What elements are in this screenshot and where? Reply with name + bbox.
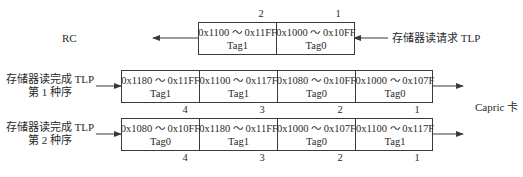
top-index-2: 2 — [251, 8, 271, 19]
capric-card-label: Capric 卡 — [475, 101, 518, 114]
cell-range: 0x1080 ～ 0x10FF — [121, 122, 200, 135]
completion-cell: 0x1100 ～ 0x117F Tag1 — [200, 71, 278, 102]
cell-range: 0x1000 ～ 0x10FF — [276, 26, 355, 39]
cell-tag: Tag1 — [385, 135, 406, 148]
cell-range: 0x1180 ～ 0x11FF — [121, 74, 200, 87]
order1-index-3: 3 — [252, 104, 272, 115]
cell-tag: Tag1 — [150, 87, 171, 100]
order2-label-line1: 存储器读完成 TLP — [0, 121, 105, 134]
order2-label-line2: 第 2 种序 — [0, 134, 105, 147]
cell-tag: Tag0 — [385, 87, 406, 100]
completion-cell: 0x1180 ～ 0x11FF Tag1 — [200, 119, 278, 150]
order2-index-4: 4 — [175, 152, 195, 163]
order1-label-line2: 第 1 种序 — [0, 86, 105, 99]
completion-cell: 0x1100 ～ 0x117F Tag1 — [356, 119, 434, 150]
cell-tag: Tag0 — [306, 87, 327, 100]
cell-range: 0x1000 ～ 0x107F — [277, 122, 356, 135]
cell-range: 0x1100 ～ 0x117F — [199, 74, 277, 87]
cell-tag: Tag0 — [306, 39, 327, 52]
cell-tag: Tag0 — [150, 135, 171, 148]
completion-cell: 0x1000 ～ 0x107F Tag0 — [278, 119, 356, 150]
order1-label-line1: 存储器读完成 TLP — [0, 73, 105, 86]
order2-label: 存储器读完成 TLP 第 2 种序 — [0, 121, 105, 147]
cell-range: 0x1100 ～ 0x117F — [356, 122, 434, 135]
cell-range: 0x1000 ～ 0x107F — [356, 74, 435, 87]
cell-range: 0x1100 ～ 0x11FF — [198, 26, 277, 39]
completion-cell: 0x1180 ～ 0x11FF Tag1 — [122, 71, 200, 102]
request-cell: 0x1100 ～ 0x11FF Tag1 — [199, 23, 277, 54]
order2-index-3: 3 — [252, 152, 272, 163]
cell-range: 0x1080 ～ 0x10FF — [277, 74, 356, 87]
request-tlp-row: 0x1100 ～ 0x11FF Tag1 0x1000 ～ 0x10FF Tag… — [198, 22, 355, 55]
completion-cell: 0x1080 ～ 0x10FF Tag0 — [122, 119, 200, 150]
read-request-label: 存储器读请求 TLP — [392, 32, 480, 45]
rc-label: RC — [62, 32, 77, 45]
top-index-1: 1 — [328, 8, 348, 19]
order2-index-1: 1 — [407, 152, 427, 163]
completion-cell: 0x1000 ～ 0x107F Tag0 — [356, 71, 434, 102]
completion-order1-row: 0x1180 ～ 0x11FF Tag1 0x1100 ～ 0x117F Tag… — [121, 70, 433, 103]
request-cell: 0x1000 ～ 0x10FF Tag0 — [277, 23, 355, 54]
completion-cell: 0x1080 ～ 0x10FF Tag0 — [278, 71, 356, 102]
order1-index-1: 1 — [407, 104, 427, 115]
order1-index-4: 4 — [175, 104, 195, 115]
cell-tag: Tag0 — [306, 135, 327, 148]
order2-index-2: 2 — [330, 152, 350, 163]
completion-order2-row: 0x1080 ～ 0x10FF Tag0 0x1180 ～ 0x11FF Tag… — [121, 118, 433, 151]
cell-tag: Tag1 — [227, 39, 248, 52]
cell-range: 0x1180 ～ 0x11FF — [199, 122, 278, 135]
cell-tag: Tag1 — [228, 87, 249, 100]
cell-tag: Tag1 — [228, 135, 249, 148]
order1-index-2: 2 — [330, 104, 350, 115]
order1-label: 存储器读完成 TLP 第 1 种序 — [0, 73, 105, 99]
